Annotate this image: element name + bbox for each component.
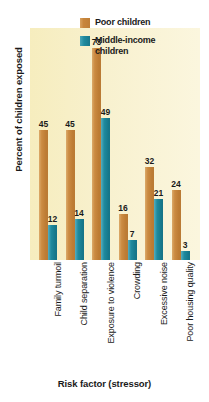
bar-value-label: 3 <box>183 240 188 250</box>
bar: 73 <box>92 48 101 260</box>
legend-item-middle-income-children: Middle-income children <box>80 35 170 56</box>
x-axis-tick-label: Poor housing quality <box>185 262 195 370</box>
bar-value-label: 24 <box>171 179 180 189</box>
bar: 21 <box>154 199 163 260</box>
bar-group: 4512 <box>39 28 58 260</box>
x-axis-category-labels: Family turmoilChild separationExposure t… <box>30 262 200 370</box>
bar: 16 <box>119 214 128 260</box>
bar-value-label: 14 <box>74 208 83 218</box>
x-axis-tick-label: Exposure to violence <box>106 262 116 370</box>
legend-swatch-icon-poor <box>80 18 90 28</box>
y-axis-title: Percent of children exposed <box>13 0 24 220</box>
bar: 24 <box>172 190 181 260</box>
legend-item-poor-children: Poor children <box>80 17 170 28</box>
chart-legend: Poor children Middle-income children <box>80 17 170 63</box>
bar: 45 <box>66 130 75 261</box>
bar-value-label: 32 <box>145 156 154 166</box>
bar-value-label: 45 <box>39 119 48 129</box>
x-axis-title: Risk factor (stressor) <box>0 378 209 389</box>
bar-value-label: 45 <box>65 119 74 129</box>
x-axis-tick-label: Excessive noise <box>159 262 169 370</box>
x-axis-tick-label: Child separation <box>79 262 89 370</box>
bar-value-label: 16 <box>118 203 127 213</box>
x-axis-tick-label: Crowding <box>132 262 142 370</box>
legend-swatch-icon-middle <box>80 36 90 46</box>
legend-label-middle: Middle-income children <box>95 35 170 56</box>
bar-value-label: 7 <box>130 229 135 239</box>
bar: 7 <box>128 240 137 260</box>
x-axis-tick-label: Family turmoil <box>53 262 63 370</box>
bar-value-label: 49 <box>101 107 110 117</box>
bar-group: 243 <box>172 28 191 260</box>
bar: 14 <box>75 219 84 260</box>
bar-value-label: 21 <box>154 188 163 198</box>
bar-value-label: 12 <box>48 214 57 224</box>
bar: 49 <box>101 118 110 260</box>
bar: 3 <box>181 251 190 260</box>
bar: 45 <box>39 130 48 261</box>
bar: 32 <box>145 167 154 260</box>
legend-label-poor: Poor children <box>95 17 150 28</box>
bar: 12 <box>48 225 57 260</box>
